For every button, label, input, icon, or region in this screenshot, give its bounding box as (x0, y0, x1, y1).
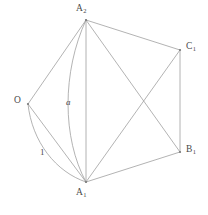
vertex-label-A1-subscript: 1 (83, 191, 86, 198)
vertex-label-A2: A2 (76, 4, 87, 14)
vertex-label-C1-base: C (186, 41, 193, 51)
figure-drawing (0, 0, 208, 215)
vertex-label-A2-base: A (76, 3, 83, 13)
vertex-label-B1: B1 (186, 145, 196, 155)
edge-label-1: 1 (40, 148, 45, 157)
vertex-label-C1: C1 (186, 42, 196, 52)
vertex-dot-A1 (85, 181, 87, 183)
vertex-dot-B1 (179, 151, 181, 153)
vertex-label-O-base: O (14, 95, 21, 105)
vertex-label-C1-subscript: 1 (193, 45, 196, 52)
edge-A2-B1 (86, 20, 180, 152)
geometric-figure-canvas: A2 C1 B1 A1 O a 1 (0, 0, 208, 215)
vertex-dot-C1 (179, 49, 181, 51)
vertex-dot-O (27, 103, 29, 105)
edge-B1-A1 (86, 152, 180, 182)
vertex-label-B1-base: B (186, 144, 193, 154)
vertex-label-A1-base: A (76, 187, 83, 197)
edge-A2-C1 (86, 20, 180, 50)
edge-O-A1 (28, 104, 86, 182)
vertex-label-B1-subscript: 1 (193, 148, 196, 155)
edge-O-A2 (28, 20, 86, 104)
arc-edges-group (28, 20, 86, 182)
edge-label-a: a (66, 98, 71, 107)
vertex-label-A1: A1 (76, 188, 87, 198)
vertex-label-A2-subscript: 2 (83, 7, 86, 14)
vertex-label-O: O (14, 96, 21, 106)
vertex-dot-A2 (85, 19, 87, 21)
edge-A1-C1 (86, 50, 180, 182)
vertex-dots-group (27, 19, 181, 183)
